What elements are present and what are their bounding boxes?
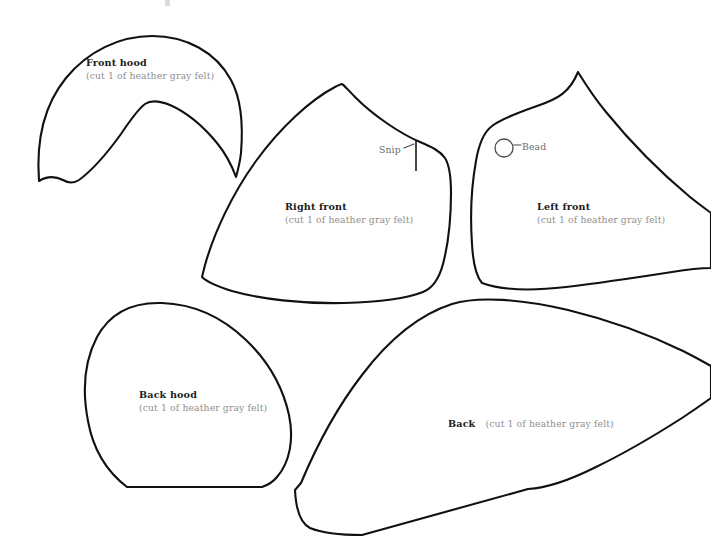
piece-label-left-front: Left front (cut 1 of heather gray felt) <box>537 201 665 226</box>
piece-label-front-hood: Front hood (cut 1 of heather gray felt) <box>86 57 214 82</box>
piece-sub-back-hood: (cut 1 of heather gray felt) <box>139 402 267 414</box>
pattern-pieces-canvas <box>0 0 711 550</box>
piece-title-right-front: Right front <box>285 201 413 214</box>
pattern-sheet: Front hood (cut 1 of heather gray felt) … <box>0 0 711 550</box>
piece-title-front-hood: Front hood <box>86 57 214 70</box>
piece-title-back: Back <box>448 418 475 429</box>
piece-sub-left-front: (cut 1 of heather gray felt) <box>537 214 665 226</box>
piece-label-back-hood: Back hood (cut 1 of heather gray felt) <box>139 389 267 414</box>
piece-title-left-front: Left front <box>537 201 665 214</box>
piece-label-right-front: Right front (cut 1 of heather gray felt) <box>285 201 413 226</box>
piece-sub-back: (cut 1 of heather gray felt) <box>486 418 614 429</box>
marker-label-bead: Bead <box>522 141 546 152</box>
piece-label-back: Back (cut 1 of heather gray felt) <box>448 411 614 432</box>
marker-label-snip: Snip <box>379 144 401 155</box>
piece-sub-right-front: (cut 1 of heather gray felt) <box>285 214 413 226</box>
piece-sub-front-hood: (cut 1 of heather gray felt) <box>86 70 214 82</box>
piece-outline-left-front <box>471 72 711 290</box>
piece-title-back-hood: Back hood <box>139 389 267 402</box>
